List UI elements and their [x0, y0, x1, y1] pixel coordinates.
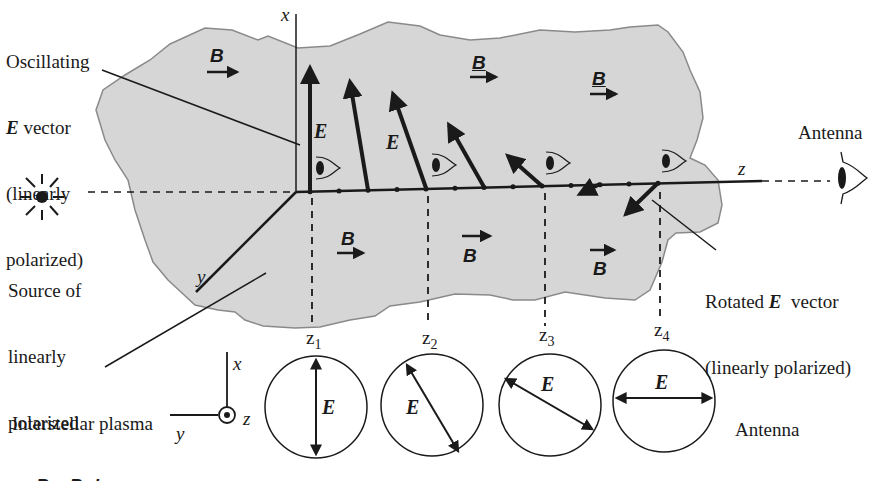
position-label-z3: z3 — [539, 324, 554, 353]
y-axis-label: y — [197, 266, 205, 288]
antenna-eye-icon — [838, 152, 867, 204]
axis-triad-icon — [170, 352, 235, 423]
label-antenna-view: Antenna view — [735, 375, 799, 481]
b-label-5: B — [463, 245, 477, 267]
e-label-view-z2: E — [406, 396, 419, 418]
triad-x-label: x — [233, 353, 241, 375]
label-antenna: Antenna — [798, 122, 862, 144]
position-label-z1: z1 — [306, 327, 321, 356]
e-label-view-z4: E — [655, 371, 668, 393]
faraday-rotation-diagram: Oscillating E vector (linearly polarized… — [0, 0, 890, 481]
e-label-view-z1: E — [322, 396, 335, 418]
b-label-4: B — [341, 228, 355, 250]
b-label-1: B — [210, 45, 224, 67]
e-label-path-2: E — [386, 131, 399, 153]
e-label-path-1: E — [314, 120, 327, 142]
b-label-2: B — [472, 52, 486, 74]
position-label-z2: z2 — [422, 327, 437, 356]
b-label-6: B — [593, 258, 607, 280]
view-circle-z2 — [381, 354, 483, 456]
x-axis-label: x — [281, 4, 289, 26]
position-label-z4: z4 — [654, 319, 669, 348]
b-label-3: B — [592, 68, 606, 90]
z-axis-label: z — [738, 158, 745, 180]
interstellar-plasma-region — [96, 22, 722, 328]
view-circle-z4 — [613, 350, 715, 452]
label-b-formula: B = Bz k — [16, 453, 104, 481]
triad-y-label: y — [176, 423, 184, 445]
e-label-view-z3: E — [541, 373, 554, 395]
triad-z-label: z — [243, 408, 250, 430]
k-hat: k — [94, 476, 104, 481]
